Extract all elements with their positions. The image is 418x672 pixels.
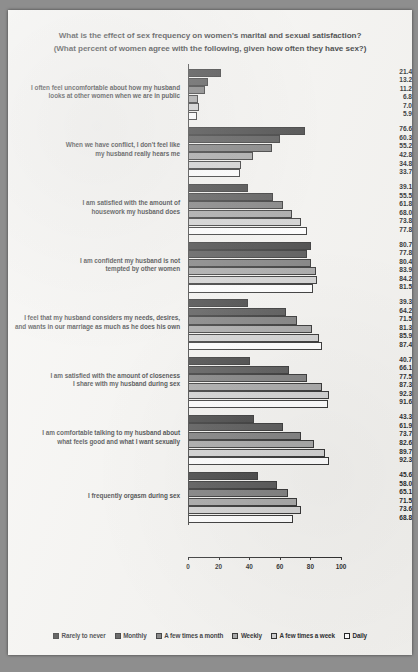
bar-value-label: 85.9: [382, 332, 412, 339]
bar: [188, 472, 258, 480]
x-axis-tick: [188, 557, 189, 560]
bar: [188, 284, 313, 292]
bar-row: 92.3: [188, 391, 412, 399]
group-label-line: I am confident my husband is not: [8, 257, 180, 266]
bar-row: 77.5: [188, 374, 412, 382]
bar-row: 5.9: [188, 112, 412, 120]
group-label: I frequently orgasm during sex: [8, 492, 180, 501]
bar-value-label: 39.3: [382, 298, 412, 305]
bar-value-label: 11.2: [382, 85, 412, 92]
legend-swatch-icon: [344, 633, 350, 639]
bar-value-label: 77.8: [382, 226, 412, 233]
chart-group: I am satisfied with the amount of closen…: [8, 352, 412, 410]
bar: [188, 506, 301, 514]
group-label: When we have conflict, I don't feel like…: [8, 142, 180, 159]
bar-value-label: 77.5: [382, 373, 412, 380]
bar: [188, 383, 322, 391]
bar: [188, 481, 277, 489]
bar: [188, 250, 307, 258]
bar: [188, 69, 221, 77]
x-axis-tick-label: 100: [336, 563, 347, 570]
bar: [188, 423, 283, 431]
bar-value-label: 43.3: [382, 413, 412, 420]
group-label: I am satisfied with the amount ofhousewo…: [8, 199, 180, 216]
bar-value-label: 64.2: [382, 307, 412, 314]
bar: [188, 391, 329, 399]
bar: [188, 78, 208, 86]
bar: [188, 515, 293, 523]
group-label-line: and wants in our marriage as much as he …: [8, 323, 180, 332]
group-label: I am comfortable talking to my husband a…: [8, 430, 180, 447]
bar-row: 13.2: [188, 78, 412, 86]
group-label-line: what feels good and what I want sexually: [8, 438, 180, 447]
bar: [188, 152, 253, 160]
title-line-1: What is the effect of sex frequency on w…: [24, 30, 396, 43]
bar: [188, 103, 199, 111]
bar: [188, 201, 283, 209]
bar-value-label: 61.8: [382, 200, 412, 207]
bar: [188, 144, 272, 152]
legend-swatch-icon: [232, 633, 238, 639]
bar-value-label: 21.4: [382, 68, 412, 75]
bar-row: 68.8: [188, 515, 412, 523]
legend-swatch-icon: [271, 633, 277, 639]
legend-item: Weekly: [232, 632, 262, 639]
bar: [188, 316, 297, 324]
bar-row: 33.7: [188, 169, 412, 177]
bar-row: 73.8: [188, 218, 412, 226]
bar: [188, 276, 317, 284]
group-label-line: I share with my husband during sex: [8, 381, 180, 390]
bar-value-label: 42.8: [382, 151, 412, 158]
x-axis-tick-label: 60: [276, 563, 283, 570]
legend-item: Rarely to never: [53, 632, 106, 639]
chart-group: I am confident my husband is nottempted …: [8, 237, 412, 295]
bar-value-label: 84.2: [382, 275, 412, 282]
legend-item: Monthly: [115, 632, 147, 639]
bar-row: 73.7: [188, 432, 412, 440]
bar-value-label: 71.5: [382, 315, 412, 322]
legend-item: Daily: [344, 632, 367, 639]
bar-value-label: 81.3: [382, 324, 412, 331]
legend-swatch-icon: [115, 633, 121, 639]
bar-row: 81.3: [188, 325, 412, 333]
bar-row: 80.7: [188, 242, 412, 250]
x-axis-tick: [280, 557, 281, 560]
chart-group: I am satisfied with the amount ofhousewo…: [8, 179, 412, 237]
bar-value-label: 6.8: [382, 93, 412, 100]
bar-value-label: 73.8: [382, 217, 412, 224]
bar-value-label: 7.0: [382, 102, 412, 109]
legend-label: Monthly: [123, 632, 146, 639]
bar-row: 84.2: [188, 276, 412, 284]
group-bars: 40.766.177.587.392.391.6: [188, 357, 412, 409]
chart-title: What is the effect of sex frequency on w…: [8, 10, 412, 55]
bar-row: 83.9: [188, 267, 412, 275]
bar: [188, 218, 301, 226]
bar: [188, 210, 292, 218]
bar-value-label: 34.8: [382, 160, 412, 167]
bar-value-label: 80.4: [382, 258, 412, 265]
bar-row: 11.2: [188, 86, 412, 94]
legend-label: A few times a month: [164, 632, 223, 639]
group-label: I am confident my husband is nottempted …: [8, 257, 180, 274]
bar: [188, 498, 297, 506]
bar: [188, 440, 314, 448]
bar: [188, 489, 288, 497]
bar: [188, 259, 311, 267]
chart-group: When we have conflict, I don't feel like…: [8, 122, 412, 180]
bar-row: 60.3: [188, 135, 412, 143]
bar: [188, 334, 319, 342]
chart-legend: Rarely to neverMonthlyA few times a mont…: [8, 632, 412, 639]
bar-row: 55.5: [188, 193, 412, 201]
legend-label: Weekly: [241, 632, 262, 639]
bar: [188, 95, 198, 103]
chart-group: I frequently orgasm during sex45.658.065…: [8, 467, 412, 525]
bar-row: 71.5: [188, 498, 412, 506]
bar-row: 61.9: [188, 423, 412, 431]
bar: [188, 242, 311, 250]
x-axis-tick-label: 20: [215, 563, 222, 570]
group-bars: 45.658.065.171.573.668.8: [188, 472, 412, 524]
x-axis-tick-label: 40: [246, 563, 253, 570]
bar-row: 82.6: [188, 440, 412, 448]
bar-value-label: 58.0: [382, 480, 412, 487]
bar-row: 76.6: [188, 127, 412, 135]
